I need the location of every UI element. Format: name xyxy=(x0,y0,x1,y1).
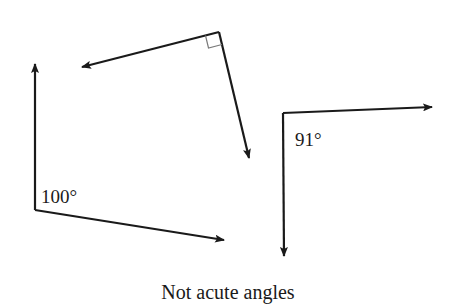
figure-caption: Not acute angles xyxy=(0,282,456,302)
ray-right-arrow xyxy=(35,210,224,240)
angle-100-figure xyxy=(35,64,224,240)
right-angle-figure xyxy=(82,32,249,158)
angle-label-100: 100° xyxy=(41,187,77,206)
angles-figure xyxy=(0,0,456,305)
angle-label-91: 91° xyxy=(295,130,322,149)
ray-right-arrow xyxy=(283,107,432,113)
ray-down-arrow xyxy=(219,32,249,158)
diagram-canvas: 100° 91° Not acute angles xyxy=(0,0,456,305)
ray-down-arrow xyxy=(283,113,284,256)
ray-left-arrow xyxy=(82,32,219,67)
